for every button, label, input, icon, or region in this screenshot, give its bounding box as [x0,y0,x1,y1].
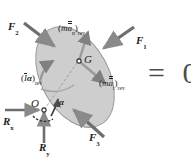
equation-equals-zero: = 0 [148,58,191,88]
point-g-marker [77,59,81,63]
normal-inertia-label: (man)rev [58,24,85,35]
point-o-label: O [31,98,39,109]
rev-subscript: rev [35,80,42,86]
force-f1-label: F1 [136,35,147,49]
moment-inertia-label: (Iα)rev [21,74,42,85]
force-f3-subscript: 3 [96,140,99,147]
force-f2-label: F2 [8,21,19,35]
force-f1-arrow [104,27,134,48]
zero-value: 0 [182,56,191,89]
equals-sign: = [148,56,170,89]
reaction-rx-subscript: x [10,124,13,131]
force-f3-label: F3 [89,132,100,146]
tangential-subscript: t [113,85,115,91]
point-g-label: G [84,54,92,65]
inertia-vector-symbol: I [24,74,27,83]
rev-subscript: rev [118,85,125,91]
force-f1-subscript: 1 [143,43,146,50]
reaction-ry-label: Ry [39,142,50,156]
tangential-inertia-label: (mat)rev [99,79,125,90]
normal-subscript: n [72,30,75,36]
angular-acceleration-label: α [59,98,64,107]
force-f2-subscript: 2 [15,29,18,36]
kinetic-diagram-figure: F2 F1 F3 Rx Ry G O α (man)rev (mat)rev (… [0,0,191,162]
reaction-rx-label: Rx [3,116,14,130]
reaction-ry-subscript: y [46,150,49,157]
rev-subscript: rev [78,30,85,36]
point-o-marker [42,108,46,112]
